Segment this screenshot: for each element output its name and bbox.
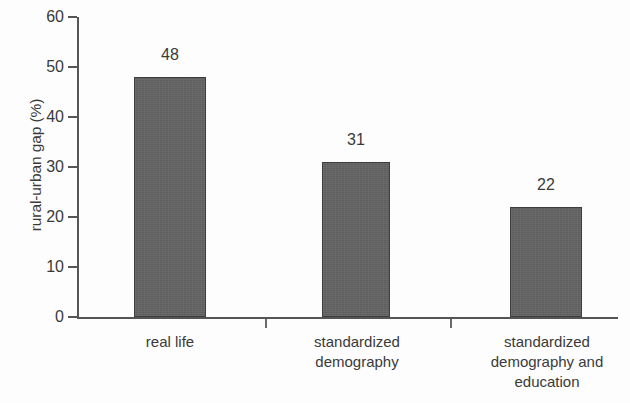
y-tick-mark xyxy=(68,116,77,118)
bar-chart: rural-urban gap (%) 0102030405060 48real… xyxy=(0,0,630,403)
bar-value-label: 22 xyxy=(485,177,607,193)
y-tick-mark xyxy=(68,266,77,268)
x-category-label-line: real life xyxy=(95,332,245,352)
y-tick-label: 50 xyxy=(20,59,64,75)
x-axis-divider xyxy=(450,319,452,328)
x-axis-line xyxy=(77,317,618,319)
y-tick-mark xyxy=(68,216,77,218)
bar-value-label: 48 xyxy=(109,47,231,63)
bar xyxy=(510,207,582,317)
y-tick-mark xyxy=(68,316,77,318)
y-tick-label: 40 xyxy=(20,109,64,125)
y-tick-label-text: 40 xyxy=(24,109,64,125)
x-category-label-line: demography and xyxy=(468,352,626,372)
x-category-label: real life xyxy=(95,332,245,352)
y-tick-label-text: 30 xyxy=(24,159,64,175)
x-axis-divider xyxy=(265,319,267,328)
y-tick-label-text: 60 xyxy=(24,9,64,25)
x-category-label-line: standardized xyxy=(282,332,432,352)
x-category-label-line: demography xyxy=(282,352,432,372)
x-category-label-line: standardized xyxy=(468,332,626,352)
bar xyxy=(322,162,390,317)
y-tick-label: 10 xyxy=(20,259,64,275)
y-axis-line xyxy=(77,17,79,318)
bar xyxy=(134,77,206,317)
y-tick-mark xyxy=(68,166,77,168)
y-tick-label: 0 xyxy=(20,309,64,325)
y-tick-label-text: 10 xyxy=(24,259,64,275)
y-tick-label-text: 0 xyxy=(24,309,64,325)
x-category-label: standardizeddemography xyxy=(282,332,432,372)
y-tick-label: 60 xyxy=(20,9,64,25)
y-tick-mark xyxy=(68,16,77,18)
y-tick-label-text: 20 xyxy=(24,209,64,225)
x-category-label: standardizeddemography andeducation xyxy=(468,332,626,392)
bar-value-label: 31 xyxy=(297,132,415,148)
y-tick-label: 20 xyxy=(20,209,64,225)
y-tick-label-text: 50 xyxy=(24,59,64,75)
y-tick-mark xyxy=(68,66,77,68)
y-tick-label: 30 xyxy=(20,159,64,175)
x-category-label-line: education xyxy=(468,372,626,392)
